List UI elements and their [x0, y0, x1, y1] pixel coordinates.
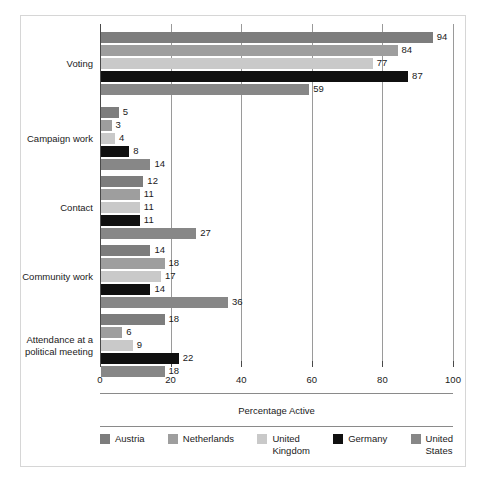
bar-group: 1211111127 — [101, 176, 453, 241]
bar-row[interactable]: 36 — [101, 297, 453, 308]
bar-value-label: 11 — [140, 188, 154, 200]
legend-label: United States — [426, 433, 453, 457]
bar-row[interactable]: 6 — [101, 327, 453, 338]
category-label: Contact — [0, 202, 93, 214]
bar[interactable] — [101, 120, 112, 131]
bar-value-label: 87 — [408, 70, 423, 82]
bar-value-label: 18 — [165, 313, 180, 325]
bar-value-label: 14 — [150, 158, 165, 170]
bar-row[interactable]: 11 — [101, 189, 453, 200]
gridline-100 — [453, 24, 454, 361]
bar-group: 534814 — [101, 107, 453, 172]
bar-row[interactable]: 77 — [101, 58, 453, 69]
bar-row[interactable]: 59 — [101, 84, 453, 95]
category-label: Attendance at apolitical meeting — [0, 334, 93, 358]
bar[interactable] — [101, 71, 408, 82]
bar[interactable] — [101, 271, 161, 282]
bar-value-label: 5 — [119, 106, 128, 118]
bar[interactable] — [101, 340, 133, 351]
bar[interactable] — [101, 245, 150, 256]
bar-row[interactable]: 12 — [101, 176, 453, 187]
bar-value-label: 18 — [165, 257, 180, 269]
bar-row[interactable]: 18 — [101, 366, 453, 377]
bar-value-label: 14 — [150, 283, 165, 295]
bar-value-label: 22 — [179, 352, 194, 364]
tick-100 — [453, 361, 454, 367]
bar-value-label: 4 — [115, 132, 124, 144]
bar-row[interactable]: 3 — [101, 120, 453, 131]
legend-label: Netherlands — [183, 433, 234, 445]
bar[interactable] — [101, 215, 140, 226]
bar-row[interactable]: 87 — [101, 71, 453, 82]
bar-row[interactable]: 14 — [101, 245, 453, 256]
bar-row[interactable]: 4 — [101, 133, 453, 144]
bar[interactable] — [101, 228, 196, 239]
bar-row[interactable]: 11 — [101, 215, 453, 226]
bar-row[interactable]: 22 — [101, 353, 453, 364]
bar-row[interactable]: 17 — [101, 271, 453, 282]
bar[interactable] — [101, 189, 140, 200]
x-axis-title-block: Percentage Active — [100, 393, 453, 427]
legend-swatch — [411, 434, 421, 444]
bar-row[interactable]: 18 — [101, 314, 453, 325]
legend-item[interactable]: United Kingdom — [257, 433, 310, 457]
bar[interactable] — [101, 146, 129, 157]
bar-row[interactable]: 94 — [101, 32, 453, 43]
bar-value-label: 3 — [112, 119, 121, 131]
legend-item[interactable]: Germany — [333, 433, 387, 445]
bar[interactable] — [101, 353, 179, 364]
bar-value-label: 9 — [133, 339, 142, 351]
bar[interactable] — [101, 107, 119, 118]
bar-row[interactable]: 14 — [101, 284, 453, 295]
bar-value-label: 17 — [161, 270, 176, 282]
bar[interactable] — [101, 84, 309, 95]
legend-item[interactable]: United States — [411, 433, 453, 457]
bar[interactable] — [101, 202, 140, 213]
x-axis-title: Percentage Active — [100, 394, 453, 426]
bar-value-label: 27 — [196, 227, 211, 239]
legend-swatch — [257, 434, 267, 444]
bar[interactable] — [101, 159, 150, 170]
bar[interactable] — [101, 258, 165, 269]
bar[interactable] — [101, 284, 150, 295]
bar-row[interactable]: 8 — [101, 146, 453, 157]
bar-value-label: 11 — [140, 214, 154, 226]
legend-item[interactable]: Austria — [100, 433, 145, 445]
bar-row[interactable]: 18 — [101, 258, 453, 269]
bar-row[interactable]: 11 — [101, 202, 453, 213]
bar-row[interactable]: 14 — [101, 159, 453, 170]
bar[interactable] — [101, 32, 433, 43]
category-label: Community work — [0, 271, 93, 283]
bar-value-label: 77 — [373, 57, 388, 69]
bar[interactable] — [101, 297, 228, 308]
bar[interactable] — [101, 366, 165, 377]
bar-value-label: 59 — [309, 83, 324, 95]
bar[interactable] — [101, 58, 373, 69]
bar-value-label: 14 — [150, 244, 165, 256]
bar-value-label: 11 — [140, 201, 154, 213]
bar-value-label: 6 — [122, 326, 131, 338]
legend-swatch — [168, 434, 178, 444]
bar[interactable] — [101, 314, 165, 325]
bar-value-label: 18 — [165, 365, 180, 377]
chart-legend: AustriaNetherlandsUnited KingdomGermanyU… — [100, 433, 453, 457]
category-label: Campaign work — [0, 133, 93, 145]
bar[interactable] — [101, 176, 143, 187]
bar-value-label: 12 — [143, 175, 158, 187]
bar-row[interactable]: 84 — [101, 45, 453, 56]
bar-group: 18692218 — [101, 314, 453, 379]
bar[interactable] — [101, 45, 398, 56]
bar[interactable] — [101, 133, 115, 144]
bar-group: 9484778759 — [101, 32, 453, 97]
bar-row[interactable]: 5 — [101, 107, 453, 118]
legend-label: Germany — [348, 433, 387, 445]
plot-area: 020406080100 948477875953481412111111271… — [100, 24, 453, 361]
legend-label: Austria — [115, 433, 145, 445]
bar[interactable] — [101, 327, 122, 338]
bar-row[interactable]: 9 — [101, 340, 453, 351]
bar-row[interactable]: 27 — [101, 228, 453, 239]
legend-swatch — [100, 434, 110, 444]
bar-value-label: 84 — [398, 44, 413, 56]
legend-label: United Kingdom — [272, 433, 310, 457]
legend-item[interactable]: Netherlands — [168, 433, 234, 445]
